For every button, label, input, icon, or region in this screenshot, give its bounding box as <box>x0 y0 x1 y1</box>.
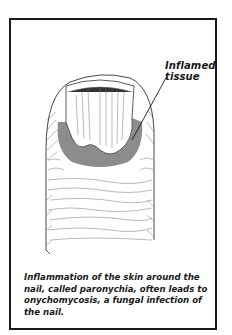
inflamed-tissue-label: Inflamed tissue <box>165 60 216 82</box>
skin-texture <box>48 158 153 240</box>
callout-leader-line <box>132 76 167 140</box>
label-line-2: tissue <box>165 71 216 82</box>
figure-caption: Inflammation of the skin around the nail… <box>24 272 214 318</box>
label-line-1: Inflamed <box>165 60 216 71</box>
